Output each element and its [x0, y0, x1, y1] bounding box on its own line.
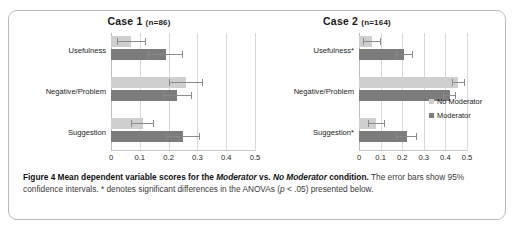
category-label: Suggestion* — [313, 128, 354, 137]
x-tick: 0.4 — [440, 153, 451, 162]
error-bar-moderator — [396, 54, 413, 55]
legend-item-moderator: Moderator — [429, 111, 499, 120]
figure-frame: Case 1 (n=86) Usefulness — [8, 10, 506, 220]
error-bar-no-moderator — [131, 123, 154, 124]
error-bar-moderator — [148, 54, 183, 55]
caption-italic-no-moderator: No Moderator — [273, 172, 327, 182]
x-axis-ticks-case-1: 0 0.1 0.2 0.3 0.4 0.5 — [111, 151, 255, 165]
legend-item-no-moderator: No Moderator — [429, 97, 499, 106]
caption-italic-moderator: Moderator — [216, 172, 257, 182]
chart-legend: No Moderator Moderator — [429, 97, 499, 125]
x-tick: 0 — [357, 153, 361, 162]
error-bar-moderator — [166, 136, 201, 137]
error-bar-moderator — [443, 95, 456, 96]
x-tick: 0 — [109, 153, 113, 162]
bar-group-usefulness: Usefulness* — [359, 35, 467, 65]
chart-panels: Case 1 (n=86) Usefulness — [9, 11, 505, 163]
chart-panel-case-2: Case 2 (n=164) Usefulness* — [255, 11, 503, 163]
error-bar-moderator — [396, 136, 418, 137]
legend-swatch-icon — [429, 113, 434, 118]
error-bar-no-moderator — [117, 41, 146, 42]
category-label: Usefulness* — [313, 46, 354, 55]
error-bar-no-moderator — [452, 82, 465, 83]
panel-title-case-2: Case 2 (n=164) — [233, 15, 481, 27]
caption-bold-mid: vs. — [257, 172, 273, 182]
x-tick: 0.3 — [192, 153, 203, 162]
category-label: Usefulness — [68, 46, 106, 55]
caption-figure-number: Figure 4 — [23, 172, 55, 182]
error-bar-moderator — [163, 95, 192, 96]
caption-bold-tail: condition. — [327, 172, 369, 182]
bar-no-moderator — [359, 77, 458, 88]
legend-swatch-icon — [429, 99, 434, 104]
panel-sample-size: (n=164) — [361, 18, 391, 27]
category-label: Negative/Problem — [294, 87, 354, 96]
panel-sample-size: (n=86) — [146, 18, 171, 27]
caption-bold-lead: Mean dependent variable scores for the — [58, 172, 217, 182]
category-label: Suggestion — [68, 128, 106, 137]
x-tick: 0.3 — [419, 153, 430, 162]
figure-caption: Figure 4 Mean dependent variable scores … — [23, 171, 493, 195]
bar-group-negative-problem: Negative/Problem — [111, 76, 255, 106]
bar-group-usefulness: Usefulness — [111, 35, 255, 65]
panel-title-text: Case 2 — [323, 15, 358, 27]
category-label: Negative/Problem — [46, 87, 106, 96]
x-tick: 0.1 — [135, 153, 146, 162]
x-tick: 0.2 — [397, 153, 408, 162]
chart-panel-case-1: Case 1 (n=86) Usefulness — [15, 11, 263, 163]
legend-label: Moderator — [437, 111, 471, 120]
x-tick: 0.4 — [221, 153, 232, 162]
x-tick: 0.1 — [375, 153, 386, 162]
caption-rest-2: < .05) presented below. — [285, 184, 374, 194]
plot-area-case-1: Usefulness Negative/Problem — [111, 33, 255, 151]
plot-area-case-2: Usefulness* Negative/Problem — [359, 33, 467, 151]
x-axis-ticks-case-2: 0 0.1 0.2 0.3 0.4 0.5 — [359, 151, 467, 165]
x-tick: 0.2 — [163, 153, 174, 162]
panel-title-text: Case 1 — [107, 15, 142, 27]
legend-label: No Moderator — [437, 97, 482, 106]
error-bar-no-moderator — [363, 41, 380, 42]
panel-title-case-1: Case 1 (n=86) — [15, 15, 263, 27]
bar-group-suggestion: Suggestion — [111, 117, 255, 147]
error-bar-no-moderator — [368, 123, 385, 124]
error-bar-no-moderator — [169, 82, 204, 83]
x-tick: 0.5 — [462, 153, 473, 162]
